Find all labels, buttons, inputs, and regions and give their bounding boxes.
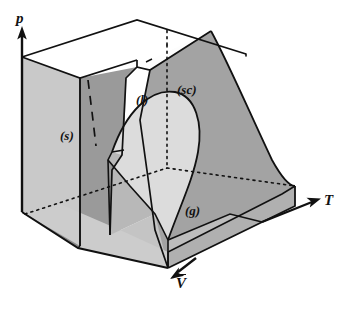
gas-region-label: (g) [185, 203, 200, 219]
temperature-axis-label: T [324, 192, 333, 209]
liquid-region-label: (l) [136, 92, 148, 108]
phase-diagram-figure: p T V (s) (l) (sc) (g) [0, 0, 344, 312]
pressure-axis-label: p [16, 10, 24, 27]
supercritical-region-label: (sc) [177, 82, 197, 98]
molar-volume-axis-label: V [176, 274, 186, 292]
phase-surface-svg [0, 0, 344, 312]
molar-volume-axis-label-text: V [176, 274, 186, 291]
solid-region-label: (s) [60, 128, 74, 144]
